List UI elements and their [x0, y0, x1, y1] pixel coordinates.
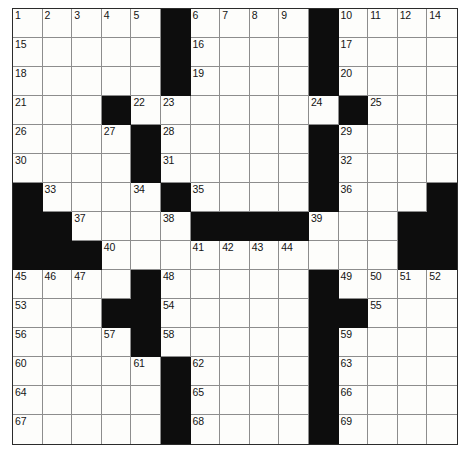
grid-cell[interactable]: 66 — [339, 386, 369, 415]
grid-cell[interactable]: 21 — [13, 96, 43, 125]
grid-cell[interactable]: 15 — [13, 38, 43, 67]
grid-cell[interactable]: 33 — [43, 183, 73, 212]
grid-cell[interactable] — [43, 96, 73, 125]
grid-cell[interactable] — [250, 67, 280, 96]
grid-cell[interactable] — [72, 357, 102, 386]
grid-cell[interactable]: 60 — [13, 357, 43, 386]
grid-cell[interactable] — [368, 67, 398, 96]
grid-cell[interactable]: 9 — [279, 9, 309, 38]
grid-cell[interactable]: 35 — [191, 183, 221, 212]
grid-cell[interactable]: 12 — [398, 9, 428, 38]
grid-cell[interactable] — [368, 415, 398, 444]
grid-cell[interactable]: 58 — [161, 328, 191, 357]
grid-cell[interactable] — [250, 183, 280, 212]
grid-cell[interactable] — [43, 386, 73, 415]
grid-cell[interactable] — [250, 154, 280, 183]
grid-cell[interactable]: 32 — [339, 154, 369, 183]
grid-cell[interactable] — [279, 357, 309, 386]
grid-cell[interactable] — [191, 154, 221, 183]
grid-cell[interactable]: 56 — [13, 328, 43, 357]
grid-cell[interactable] — [72, 125, 102, 154]
grid-cell[interactable] — [102, 270, 132, 299]
grid-cell[interactable]: 2 — [43, 9, 73, 38]
grid-cell[interactable] — [191, 270, 221, 299]
grid-cell[interactable]: 7 — [220, 9, 250, 38]
grid-cell[interactable] — [220, 415, 250, 444]
grid-cell[interactable]: 22 — [131, 96, 161, 125]
grid-cell[interactable] — [368, 328, 398, 357]
grid-cell[interactable]: 30 — [13, 154, 43, 183]
grid-cell[interactable]: 52 — [427, 270, 457, 299]
grid-cell[interactable] — [398, 38, 428, 67]
grid-cell[interactable] — [279, 270, 309, 299]
grid-cell[interactable]: 36 — [339, 183, 369, 212]
grid-cell[interactable] — [368, 154, 398, 183]
grid-cell[interactable] — [398, 415, 428, 444]
grid-cell[interactable]: 11 — [368, 9, 398, 38]
grid-cell[interactable] — [131, 241, 161, 270]
grid-cell[interactable] — [72, 328, 102, 357]
grid-cell[interactable] — [339, 212, 369, 241]
grid-cell[interactable] — [102, 183, 132, 212]
grid-cell[interactable] — [250, 357, 280, 386]
grid-cell[interactable] — [43, 415, 73, 444]
grid-cell[interactable] — [43, 154, 73, 183]
grid-cell[interactable] — [131, 67, 161, 96]
grid-cell[interactable]: 65 — [191, 386, 221, 415]
grid-cell[interactable]: 68 — [191, 415, 221, 444]
grid-cell[interactable] — [279, 67, 309, 96]
grid-cell[interactable]: 50 — [368, 270, 398, 299]
grid-cell[interactable]: 34 — [131, 183, 161, 212]
grid-cell[interactable]: 19 — [191, 67, 221, 96]
grid-cell[interactable] — [72, 38, 102, 67]
grid-cell[interactable] — [102, 154, 132, 183]
grid-cell[interactable]: 49 — [339, 270, 369, 299]
grid-cell[interactable] — [368, 241, 398, 270]
grid-cell[interactable]: 54 — [161, 299, 191, 328]
grid-cell[interactable] — [279, 415, 309, 444]
grid-cell[interactable] — [220, 38, 250, 67]
grid-cell[interactable] — [72, 154, 102, 183]
grid-cell[interactable] — [102, 212, 132, 241]
grid-cell[interactable] — [398, 386, 428, 415]
grid-cell[interactable] — [131, 38, 161, 67]
grid-cell[interactable] — [250, 386, 280, 415]
grid-cell[interactable] — [43, 357, 73, 386]
grid-cell[interactable] — [102, 386, 132, 415]
grid-cell[interactable] — [191, 96, 221, 125]
grid-cell[interactable] — [250, 415, 280, 444]
grid-cell[interactable] — [398, 125, 428, 154]
grid-cell[interactable] — [427, 415, 457, 444]
grid-cell[interactable] — [220, 96, 250, 125]
grid-cell[interactable]: 4 — [102, 9, 132, 38]
grid-cell[interactable] — [279, 386, 309, 415]
grid-cell[interactable] — [427, 386, 457, 415]
grid-cell[interactable] — [279, 38, 309, 67]
grid-cell[interactable]: 26 — [13, 125, 43, 154]
grid-cell[interactable]: 64 — [13, 386, 43, 415]
grid-cell[interactable]: 44 — [279, 241, 309, 270]
grid-cell[interactable] — [279, 125, 309, 154]
grid-cell[interactable]: 5 — [131, 9, 161, 38]
grid-cell[interactable]: 16 — [191, 38, 221, 67]
grid-cell[interactable]: 29 — [339, 125, 369, 154]
grid-cell[interactable] — [368, 183, 398, 212]
grid-cell[interactable] — [279, 154, 309, 183]
grid-cell[interactable] — [427, 154, 457, 183]
grid-cell[interactable] — [279, 328, 309, 357]
grid-cell[interactable]: 53 — [13, 299, 43, 328]
grid-cell[interactable] — [43, 125, 73, 154]
grid-cell[interactable]: 27 — [102, 125, 132, 154]
grid-cell[interactable] — [72, 299, 102, 328]
grid-cell[interactable]: 61 — [131, 357, 161, 386]
grid-cell[interactable] — [191, 328, 221, 357]
grid-cell[interactable] — [72, 415, 102, 444]
grid-cell[interactable] — [250, 96, 280, 125]
grid-cell[interactable] — [368, 386, 398, 415]
grid-cell[interactable] — [191, 125, 221, 154]
grid-cell[interactable] — [398, 96, 428, 125]
grid-cell[interactable] — [220, 270, 250, 299]
grid-cell[interactable] — [72, 183, 102, 212]
grid-cell[interactable] — [220, 328, 250, 357]
grid-cell[interactable] — [131, 386, 161, 415]
